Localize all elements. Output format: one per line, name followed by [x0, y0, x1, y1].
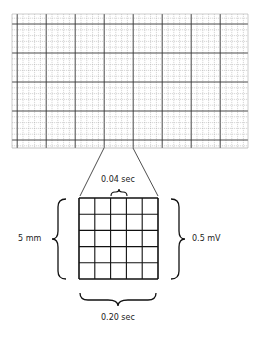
label-small-box-time: 0.04 sec: [101, 175, 135, 184]
label-large-box-voltage: 0.5 mV: [192, 234, 221, 243]
ecg-grid-diagram: [0, 0, 255, 338]
label-large-box-height: 5 mm: [18, 234, 41, 243]
ecg-paper-grid: [12, 14, 248, 148]
brace-small-box: [111, 189, 127, 196]
brace-right-voltage: [171, 199, 185, 279]
enlarged-large-box: [79, 198, 158, 279]
brace-left-height: [52, 199, 66, 279]
label-large-box-time: 0.20 sec: [101, 313, 135, 322]
callout-lines: [80, 148, 158, 196]
brace-bottom-time: [80, 293, 156, 306]
